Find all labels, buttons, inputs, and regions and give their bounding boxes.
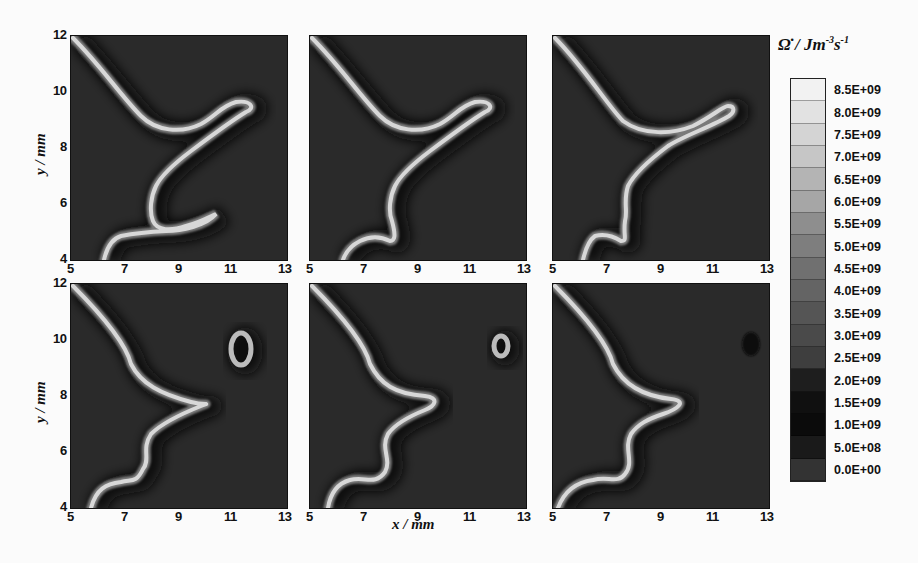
colorbar-segment	[791, 146, 825, 168]
y-tick: 10	[53, 331, 66, 346]
colorbar-segment	[791, 213, 825, 235]
colorbar-level-label: 3.0E+09	[834, 329, 881, 343]
colorbar-level-label: 5.5E+09	[834, 217, 881, 231]
x-tick: 11	[706, 509, 719, 524]
panel-b-plot	[310, 36, 526, 260]
panel-e-plot	[310, 284, 526, 508]
colorbar-title-exp2: -1	[841, 34, 849, 45]
colorbar-title: Ω̇ / Jm-3s-1	[778, 34, 849, 55]
colorbar-level-label: 5.0E+09	[834, 240, 881, 254]
colorbar-level-label: 2.0E+09	[834, 374, 881, 388]
x-tick: 7	[603, 261, 610, 276]
colorbar-segment	[791, 258, 825, 280]
x-tick: 5	[67, 261, 74, 276]
x-tick: 5	[306, 261, 313, 276]
y-tick: 10	[53, 83, 66, 98]
x-tick: 5	[549, 509, 556, 524]
x-tick: 11	[224, 261, 237, 276]
colorbar-segment	[791, 124, 825, 146]
x-tick: 5	[549, 261, 556, 276]
colorbar-segment	[791, 191, 825, 213]
contour-panel-b	[309, 35, 527, 261]
colorbar	[790, 78, 826, 482]
x-tick: 7	[360, 261, 367, 276]
colorbar-segment	[791, 459, 825, 481]
colorbar-segment	[791, 235, 825, 257]
x-tick: 13	[278, 509, 291, 524]
colorbar-segment	[791, 325, 825, 347]
colorbar-segment	[791, 79, 825, 101]
colorbar-segment	[791, 101, 825, 123]
colorbar-level-label: 5.0E+08	[834, 441, 881, 455]
x-tick: 7	[603, 509, 610, 524]
x-tick: 11	[463, 509, 476, 524]
x-tick: 9	[657, 261, 664, 276]
colorbar-segment	[791, 369, 825, 391]
x-tick: 13	[517, 261, 530, 276]
colorbar-level-label: 6.0E+09	[834, 195, 881, 209]
x-tick: 13	[760, 261, 773, 276]
contour-panel-d	[70, 283, 288, 509]
x-tick: 7	[121, 261, 128, 276]
x-tick: 13	[760, 509, 773, 524]
x-tick: 9	[175, 261, 182, 276]
colorbar-level-label: 1.5E+09	[834, 396, 881, 410]
x-tick: 11	[706, 261, 719, 276]
y-axis-label-bottom: y / mm	[32, 381, 49, 423]
contour-panel-e	[309, 283, 527, 509]
colorbar-level-label: 3.5E+09	[834, 307, 881, 321]
colorbar-level-label: 8.0E+09	[834, 106, 881, 120]
panel-c-plot	[553, 36, 769, 260]
x-tick: 5	[67, 509, 74, 524]
panel-d-plot	[71, 284, 287, 508]
x-tick: 11	[224, 509, 237, 524]
y-tick: 12	[53, 27, 66, 42]
colorbar-segment	[791, 414, 825, 436]
colorbar-title-s: s	[834, 35, 841, 54]
x-tick: 9	[657, 509, 664, 524]
colorbar-level-label: 0.0E+00	[834, 463, 881, 477]
y-tick: 6	[60, 443, 67, 458]
y-tick: 8	[60, 387, 67, 402]
colorbar-segment	[791, 280, 825, 302]
colorbar-level-label: 6.5E+09	[834, 173, 881, 187]
colorbar-title-main: Ω̇ / Jm	[778, 35, 826, 54]
colorbar-level-label: 7.5E+09	[834, 128, 881, 142]
colorbar-segment	[791, 168, 825, 190]
contour-panel-f	[552, 283, 770, 509]
x-tick: 11	[463, 261, 476, 276]
panel-f-plot	[553, 284, 769, 508]
y-tick: 4	[60, 251, 67, 266]
colorbar-level-label: 8.5E+09	[834, 83, 881, 97]
x-tick: 13	[278, 261, 291, 276]
x-tick: 13	[517, 509, 530, 524]
x-tick: 7	[121, 509, 128, 524]
y-tick: 6	[60, 195, 67, 210]
colorbar-segment	[791, 347, 825, 369]
x-tick: 9	[414, 509, 421, 524]
y-tick: 4	[60, 499, 67, 514]
colorbar-segment	[791, 436, 825, 458]
colorbar-title-exp1: -3	[826, 34, 834, 45]
x-tick: 5	[306, 509, 313, 524]
x-tick: 9	[175, 509, 182, 524]
colorbar-level-label: 4.5E+09	[834, 262, 881, 276]
colorbar-segment	[791, 302, 825, 324]
colorbar-level-label: 4.0E+09	[834, 284, 881, 298]
colorbar-level-label: 1.0E+09	[834, 418, 881, 432]
y-tick: 12	[53, 275, 66, 290]
colorbar-level-label: 2.5E+09	[834, 351, 881, 365]
contour-panel-c	[552, 35, 770, 261]
x-tick: 7	[360, 509, 367, 524]
contour-panel-a	[70, 35, 288, 261]
colorbar-segment	[791, 392, 825, 414]
colorbar-level-label: 7.0E+09	[834, 150, 881, 164]
y-tick: 8	[60, 139, 67, 154]
x-tick: 9	[414, 261, 421, 276]
panel-a-plot	[71, 36, 287, 260]
y-axis-label-top: y / mm	[32, 133, 49, 175]
